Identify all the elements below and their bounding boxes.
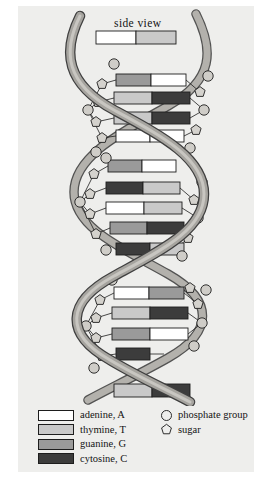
legend-label-cytosine: cytosine, C [80,454,127,465]
sugar-icon [85,189,95,199]
sugar-icon [97,133,107,143]
helix-turn-2 [75,153,207,261]
sugar-icon [95,295,105,305]
legend-item-guanine: guanine, G [38,437,127,452]
legend-item-cytosine: cytosine, C [38,452,127,467]
phosphate-icon [101,245,111,255]
guanine-swatch [38,439,74,450]
legend: adenine, A thymine, T guanine, G cytosin… [38,408,254,470]
legend-bases-column: adenine, A thymine, T guanine, G cytosin… [38,408,127,466]
cytosine-swatch [38,453,74,464]
phosphate-icon [199,105,209,115]
legend-item-thymine: thymine, T [38,423,127,438]
sugar-icon [89,169,99,179]
pentagon-icon [160,423,173,436]
base-pair [114,287,184,299]
phosphate-icon [75,197,85,207]
dna-figure-panel: side view [18,6,254,472]
sugar-icon [191,125,201,135]
dna-double-helix-diagram [18,6,254,406]
legend-label-thymine: thymine, T [80,425,126,436]
phosphate-icon [201,285,211,295]
phosphate-icon [177,251,187,261]
base-pair [114,92,190,104]
legend-item-sugar: sugar [160,423,248,438]
legend-item-adenine: adenine, A [38,408,127,423]
legend-label-guanine: guanine, G [80,439,126,450]
thymine-swatch [38,424,74,435]
phosphate-icon [109,59,119,69]
legend-label-phosphate: phosphate group [178,410,248,421]
phosphate-icon [101,153,111,163]
sugar-icon [97,79,107,89]
legend-item-phosphate: phosphate group [160,408,248,423]
sugar-icon [189,195,199,205]
phosphate-icon [189,341,199,351]
circle-icon [160,409,173,422]
legend-parts-column: phosphate group sugar [160,408,248,437]
phosphate-icon [91,147,101,157]
phosphate-icon [83,105,93,115]
base-pair [108,160,176,172]
base-pair [110,222,184,234]
base-pair [116,74,186,86]
phosphate-icon [89,363,99,373]
legend-label-adenine: adenine, A [80,410,125,421]
base-pair [106,202,182,214]
phosphate-icon [197,318,207,328]
adenine-swatch [38,410,74,421]
phosphate-icon [203,71,213,81]
base-pair [116,348,164,360]
legend-label-sugar: sugar [178,425,201,436]
base-pair [112,328,188,340]
base-pair [96,31,176,44]
base-pair [106,182,180,194]
base-pair [112,307,188,319]
